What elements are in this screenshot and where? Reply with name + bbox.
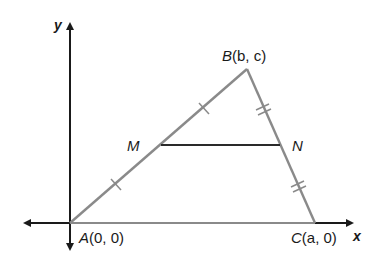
point-a-label: A(0, 0): [79, 229, 124, 246]
point-c-coords: (a, 0): [302, 229, 337, 246]
triangle-midsegment-diagram: [0, 0, 375, 253]
point-c-label: C(a, 0): [291, 229, 337, 246]
point-a-coords: (0, 0): [89, 229, 124, 246]
point-b-label: B(b, c): [222, 47, 266, 64]
point-n-label: N: [292, 137, 303, 154]
point-c-name: C: [291, 229, 302, 246]
point-m-label: M: [127, 137, 140, 154]
point-a-name: A: [79, 229, 89, 246]
point-b-name: B: [222, 47, 232, 64]
x-axis-label: x: [353, 228, 361, 244]
point-b-coords: (b, c): [232, 47, 266, 64]
y-axis-label: y: [54, 17, 62, 33]
